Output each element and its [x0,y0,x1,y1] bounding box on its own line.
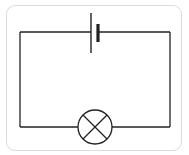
battery-cell-icon [91,13,98,53]
lamp-icon [78,110,112,144]
circuit-diagram [0,0,189,155]
